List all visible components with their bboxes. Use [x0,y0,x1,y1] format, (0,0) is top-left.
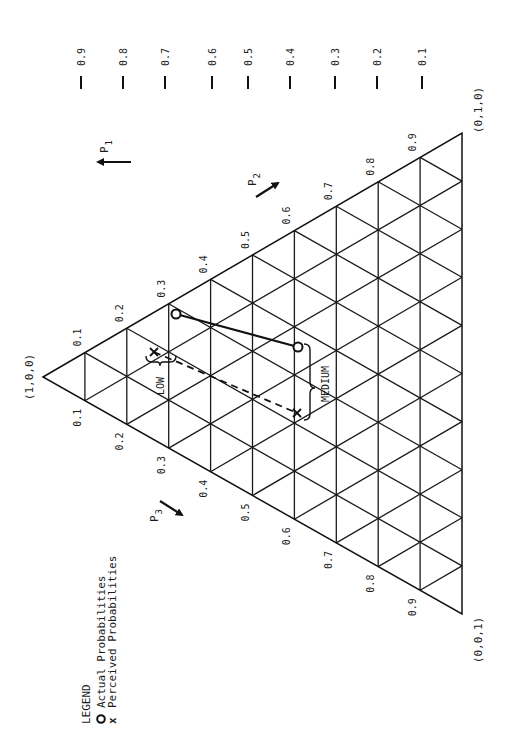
p3-edge-tick-label: 0.4 [198,480,209,498]
p2-edge-tick-label: 0.9 [407,133,418,151]
cross-marker-icon: x [106,717,119,724]
actual-point-circle-icon [294,343,303,352]
vertex-label-p2: (0,1,0) [472,87,485,133]
grid-line-p3 [85,181,462,401]
p1-scale-label: 0.3 [330,48,341,66]
p3-edge-tick-label: 0.3 [156,456,167,474]
p3-axis-label: P3 [148,509,164,522]
circle-marker-icon [97,715,105,723]
p2-edge-tick-label: 0.3 [156,280,167,298]
data-series [150,310,303,418]
p3-edge-tick-label: 0.6 [281,527,292,545]
grid-line-p3 [253,374,463,496]
vertex-label-p3: (0,0,1) [472,617,485,663]
low-label: LOW [155,376,166,395]
ternary-probability-diagram: (1,0,0) (0,1,0) (0,0,1) 0.10.20.30.40.50… [0,0,517,733]
p3-edge-tick-label: 0.8 [365,575,376,593]
p1-scale-label: 0.1 [417,48,428,66]
triangular-grid [85,157,462,590]
p3-edge-tick-label: 0.9 [407,598,418,616]
p1-scale-label: 0.7 [160,48,171,66]
p3-edge-tick-label: 0.5 [240,504,251,522]
actual-point-circle-icon [172,310,181,319]
p3-edge-tick-label: 0.7 [323,551,334,569]
p3-axis-indicator: P3 [148,501,182,522]
perceived-point-cross-icon [150,348,158,356]
grid-line-p2 [336,206,462,277]
p1-axis-label: P1 [98,140,114,153]
p2-edge-tick-label: 0.2 [114,304,125,322]
p1-scale-label: 0.2 [372,48,383,66]
legend-label-perceived: Perceived Probabilities [106,556,119,708]
p1-scale-label: 0.6 [207,48,218,66]
p1-scale: 0.90.80.70.60.50.40.30.20.1 [76,48,428,89]
p2-edge-tick-label: 0.4 [198,255,209,273]
p2-edge-tick-label: 0.7 [323,182,334,200]
legend: LEGEND Actual Probabilities x Perceived … [80,556,119,724]
p1-scale-label: 0.4 [285,48,296,66]
p2-edge-tick-label: 0.8 [365,158,376,176]
p2-axis-indicator: P2 [246,173,278,197]
grid-line-p3 [336,470,462,543]
p1-scale-label: 0.5 [243,48,254,66]
p2-axis-label: P2 [246,173,262,186]
grid-line-p2 [253,255,463,374]
grid-line-p2 [169,304,462,470]
grid-line-p3 [420,566,462,590]
p2-edge-tick-label: 0.6 [281,207,292,225]
p2-edge-tick-label: 0.1 [72,329,83,347]
legend-item-perceived: x Perceived Probabilities [106,556,119,724]
medium-label: MEDIUM [320,366,331,402]
grid-line-p3 [169,277,462,448]
vertex-label-p1: (1,0,0) [23,354,36,400]
p2-edge-tick-label: 0.5 [240,231,251,249]
p1-scale-label: 0.8 [118,48,129,66]
grid-line-p2 [85,353,462,566]
p1-axis-indicator: P1 [98,140,131,162]
p3-edge-tick-label: 0.2 [114,432,125,450]
p1-scale-label: 0.9 [76,48,87,66]
grid-line-p2 [420,157,462,181]
p3-edge-tick-label: 0.1 [72,409,83,427]
p2-arrow-icon [256,183,278,197]
legend-title: LEGEND [80,684,93,724]
